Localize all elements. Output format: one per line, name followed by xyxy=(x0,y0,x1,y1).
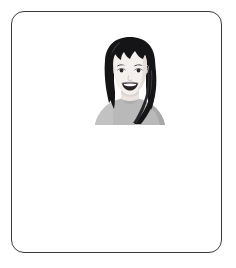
woman-avatar-illustration xyxy=(94,36,166,125)
page-root xyxy=(0,0,236,268)
rounded-border-frame xyxy=(11,11,222,253)
avatar-svg xyxy=(94,36,166,125)
